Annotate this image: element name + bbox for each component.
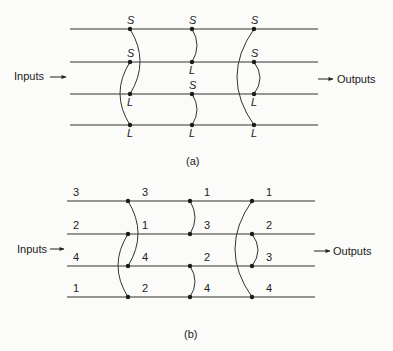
small-label: S <box>251 14 259 26</box>
small-label: S <box>127 47 135 59</box>
diagram-a-caption: (a) <box>186 155 199 167</box>
comparator-stage2-1 <box>190 201 195 234</box>
diagram-a-wires <box>70 29 318 125</box>
comparator-stage2-2 <box>192 94 197 125</box>
small-label: S <box>189 14 197 26</box>
input-value: 3 <box>73 186 79 198</box>
comparator-stage3-1 <box>237 29 254 125</box>
comparator-node <box>188 199 192 203</box>
diagram-b-wires <box>67 201 315 297</box>
diagram-a-comparator-labels: SLSLSLSLSLSL Inputs Outputs (a) <box>14 14 376 167</box>
comparator-stage3-2 <box>252 234 258 266</box>
diagram-b-comparators <box>118 201 258 297</box>
comparator-stage3-1 <box>235 201 252 297</box>
comparator-node <box>128 60 132 64</box>
comparator-node <box>128 27 132 31</box>
diagram-b-numeric-example: 3241314213241234 Inputs Outputs (b) <box>17 186 372 340</box>
comparator-node <box>250 232 254 236</box>
diagram-b-value-labels: 3241314213241234 <box>73 186 272 294</box>
comparator-stage2-1 <box>192 29 197 62</box>
comparator-node <box>126 232 130 236</box>
large-label: L <box>251 96 257 108</box>
diagram-b-outputs-label: Outputs <box>333 245 372 257</box>
large-label: L <box>251 127 257 139</box>
diagram-a-sl-labels: SLSLSLSLSLSL <box>127 14 259 139</box>
diagram-b-inputs-label: Inputs <box>17 243 47 255</box>
comparator-node <box>190 27 194 31</box>
stage-output-value: 3 <box>142 186 148 198</box>
sorting-network-diagram: SLSLSLSLSLSL Inputs Outputs (a) 32413142… <box>0 0 393 351</box>
stage-output-value: 4 <box>142 251 148 263</box>
stage-output-value: 2 <box>204 251 210 263</box>
stage-output-value: 2 <box>266 219 272 231</box>
comparator-node <box>252 27 256 31</box>
diagram-a-outputs-label: Outputs <box>337 73 376 85</box>
stage-output-value: 4 <box>204 282 210 294</box>
comparator-stage2-2 <box>190 266 195 297</box>
diagram-b-caption: (b) <box>184 328 197 340</box>
comparator-node <box>188 264 192 268</box>
stage-output-value: 1 <box>204 186 210 198</box>
large-label: L <box>189 64 195 76</box>
comparator-node <box>188 232 192 236</box>
comparator-node <box>126 199 130 203</box>
large-label: L <box>127 96 133 108</box>
comparator-node <box>250 295 254 299</box>
stage-output-value: 2 <box>142 282 148 294</box>
stage-output-value: 3 <box>266 251 272 263</box>
small-label: S <box>189 79 197 91</box>
small-label: S <box>127 14 135 26</box>
comparator-node <box>126 264 130 268</box>
comparator-node <box>250 264 254 268</box>
stage-output-value: 1 <box>142 219 148 231</box>
comparator-node <box>188 295 192 299</box>
large-label: L <box>189 127 195 139</box>
comparator-node <box>250 199 254 203</box>
comparator-node <box>252 60 256 64</box>
diagram-a-comparators <box>120 29 260 125</box>
comparator-node <box>126 295 130 299</box>
comparator-stage3-2 <box>254 62 260 94</box>
input-value: 2 <box>73 219 79 231</box>
input-value: 4 <box>73 251 79 263</box>
stage-output-value: 1 <box>266 186 272 198</box>
stage-output-value: 4 <box>266 282 272 294</box>
small-label: S <box>251 47 259 59</box>
diagram-a-inputs-label: Inputs <box>14 70 44 82</box>
stage-output-value: 3 <box>204 219 210 231</box>
large-label: L <box>127 127 133 139</box>
input-value: 1 <box>73 282 79 294</box>
comparator-node <box>190 92 194 96</box>
